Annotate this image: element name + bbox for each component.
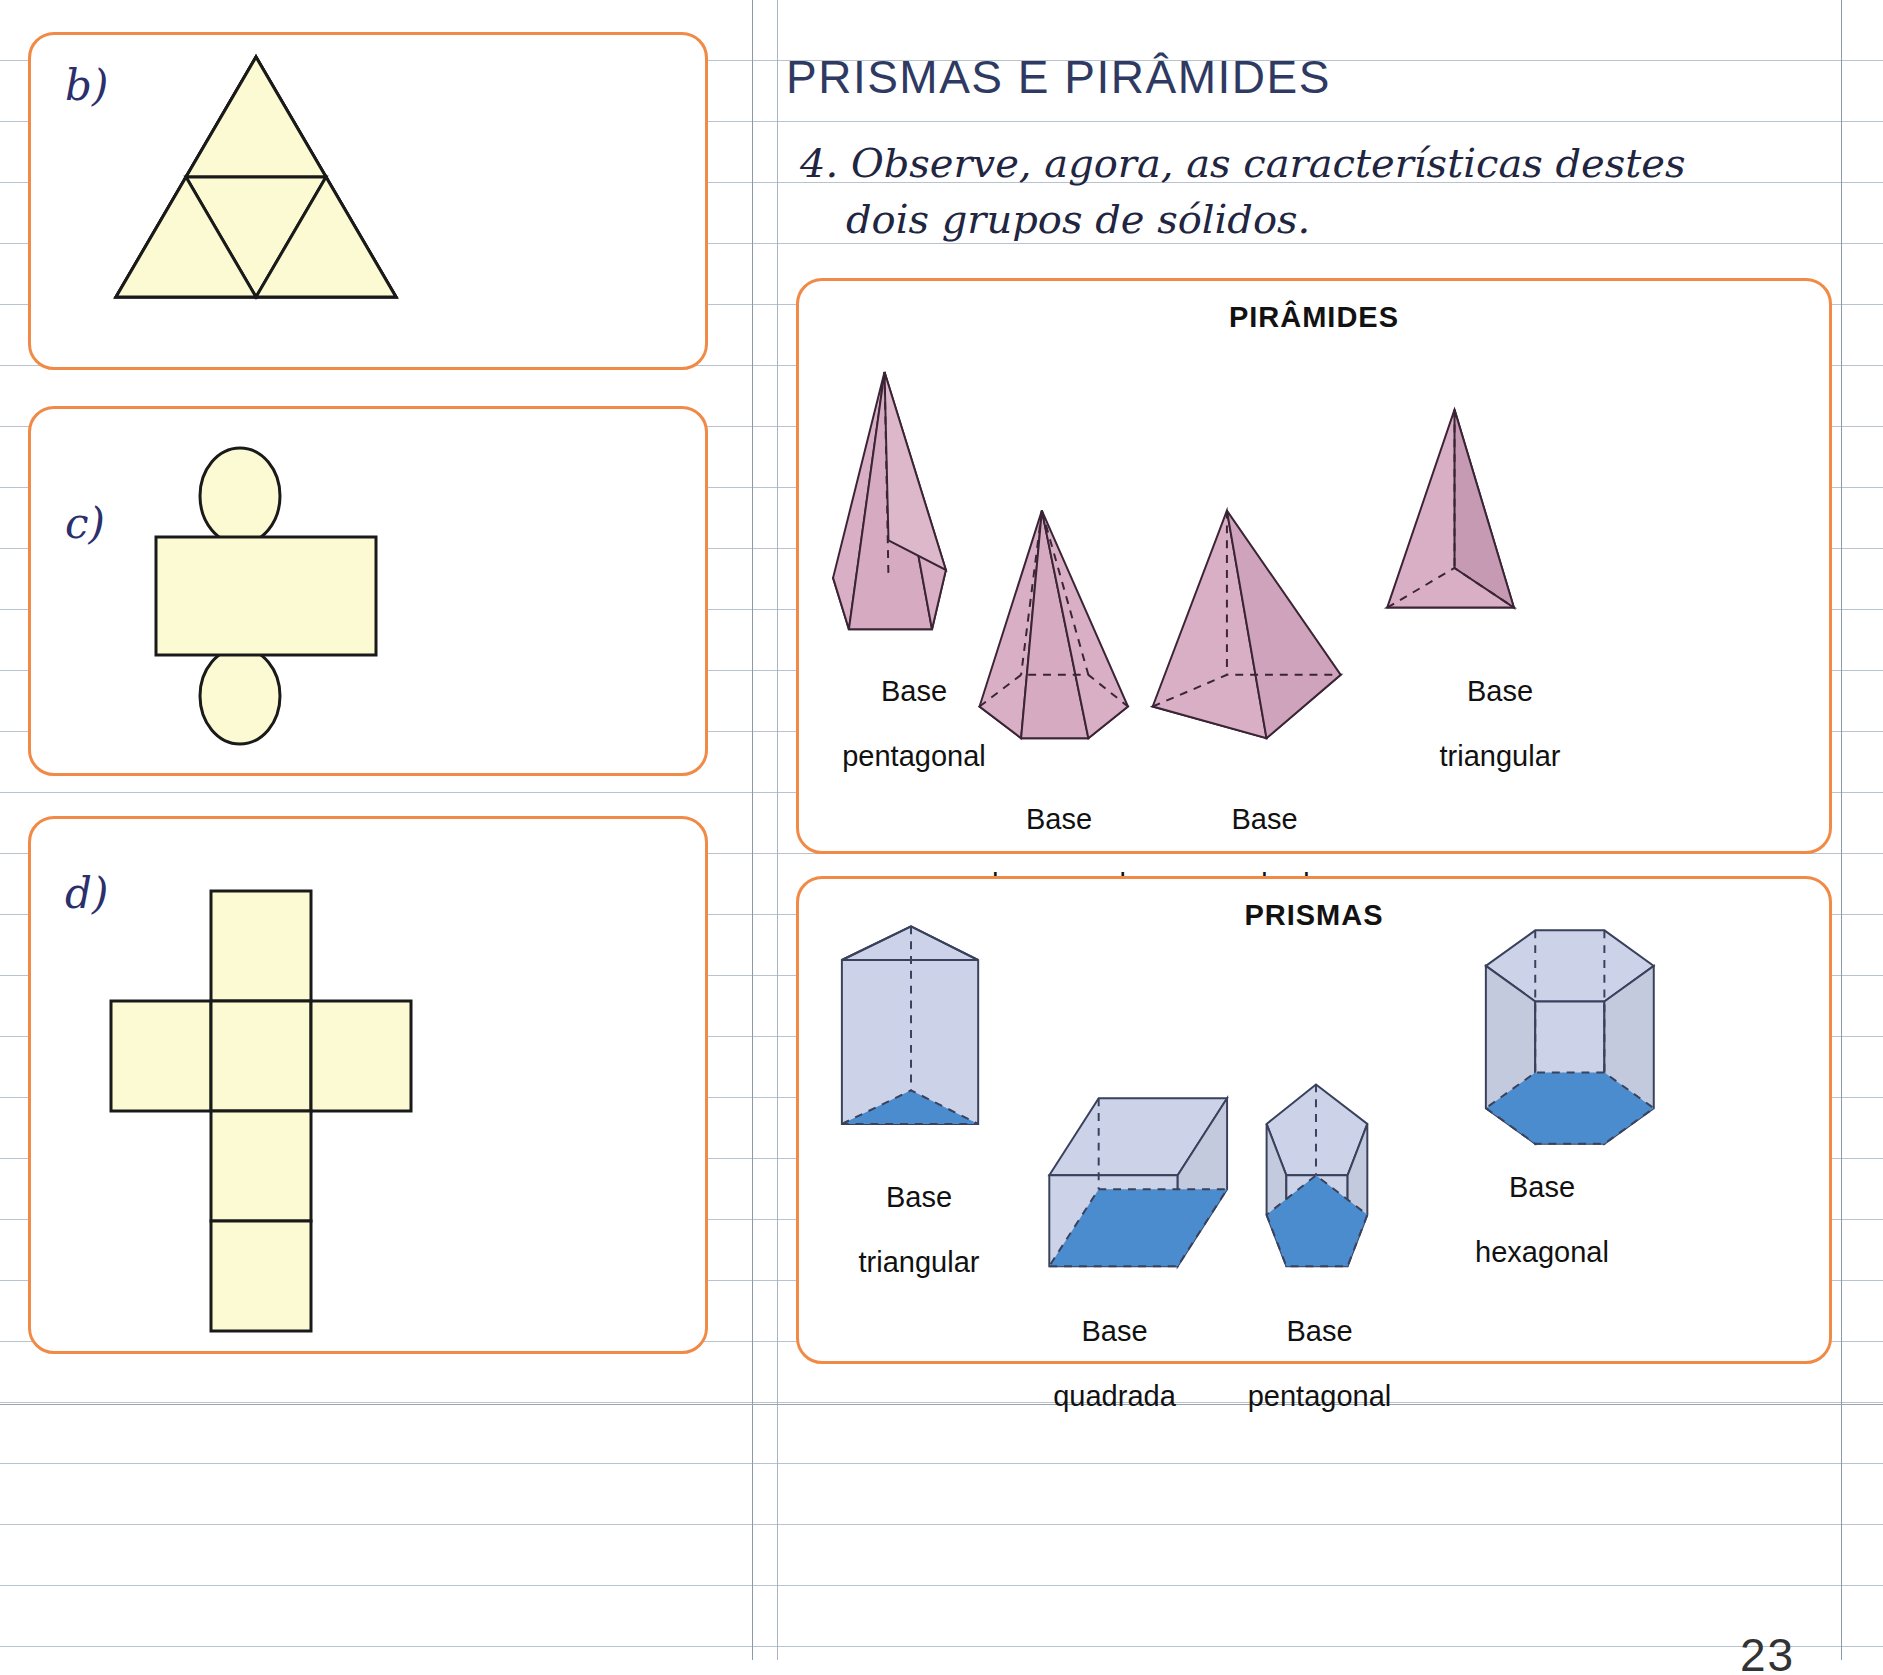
page-number: 23 <box>1740 1628 1795 1675</box>
square-prism-figure <box>1049 1098 1227 1266</box>
prism-label-hexagonal-line1: Base <box>1417 1171 1667 1203</box>
cylinder-net <box>31 409 711 779</box>
exercise-text-line-1: 4. Observe, agora, as características de… <box>800 140 1686 186</box>
square-pyramid-figure <box>1153 511 1341 739</box>
triangular-pyramid-figure <box>1387 410 1514 608</box>
prism-label-pentagonal-line2: pentagonal <box>1207 1380 1432 1412</box>
hexagonal-prism-figure <box>1486 930 1654 1143</box>
page-title: PRISMAS E PIRÂMIDES <box>786 50 1331 104</box>
pyramid-label-triangular-line1: Base <box>1385 675 1615 707</box>
net-panel-c: c) <box>28 406 708 776</box>
page-bottom-rule <box>0 1404 1883 1405</box>
net-panel-d: d) <box>28 816 708 1354</box>
prism-label-triangular-line2: triangular <box>809 1246 1029 1278</box>
pyramid-label-triangular-line2: triangular <box>1385 740 1615 772</box>
pentagonal-pyramid-figure <box>833 372 946 629</box>
pentagonal-prism-figure <box>1267 1084 1368 1266</box>
pyramid-label-hexagonal-line1: Base <box>949 803 1169 835</box>
triangular-pyramid-net <box>31 35 711 373</box>
margin-rule-inner <box>777 0 778 1660</box>
prism-label-triangular: Base triangular <box>809 1149 1029 1311</box>
prism-label-hexagonal-line2: hexagonal <box>1417 1236 1667 1268</box>
prism-label-hexagonal: Base hexagonal <box>1417 1139 1667 1301</box>
pyramid-label-pentagonal-line2: pentagonal <box>809 740 1019 772</box>
cube-net <box>31 819 711 1357</box>
triangular-prism-figure <box>842 926 978 1124</box>
pyramid-label-pentagonal-line1: Base <box>809 675 1019 707</box>
pyramids-box: PIRÂMIDES <box>796 278 1832 854</box>
prisms-box: PRISMAS <box>796 876 1832 1364</box>
exercise-text-line-2: dois grupos de sólidos. <box>846 196 1310 242</box>
prism-label-quadrada-line2: quadrada <box>1007 1380 1222 1412</box>
net-panel-b: b) <box>28 32 708 370</box>
prism-label-quadrada: Base quadrada <box>1007 1283 1222 1445</box>
prism-label-quadrada-line1: Base <box>1007 1315 1222 1347</box>
prism-label-pentagonal: Base pentagonal <box>1207 1283 1432 1445</box>
margin-rule-left <box>752 0 753 1660</box>
pyramid-label-quadrada-line1: Base <box>1157 803 1372 835</box>
margin-rule-right <box>1841 0 1842 1660</box>
pyramid-label-triangular: Base triangular <box>1385 643 1615 805</box>
prism-label-triangular-line1: Base <box>809 1181 1029 1213</box>
prism-label-pentagonal-line1: Base <box>1207 1315 1432 1347</box>
